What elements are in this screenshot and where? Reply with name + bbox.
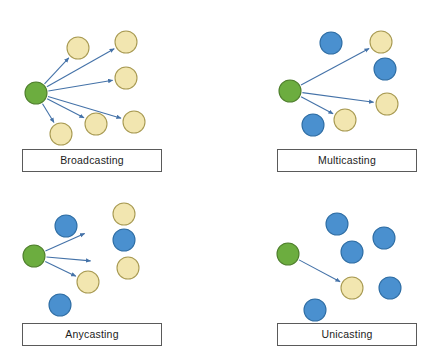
arrow-upper bbox=[45, 233, 84, 250]
panel-label-unicasting: Unicasting bbox=[277, 323, 417, 346]
source-node bbox=[277, 243, 299, 265]
idle-node-2 bbox=[374, 58, 396, 80]
panel-label-anycasting: Anycasting bbox=[22, 323, 162, 346]
source-node bbox=[25, 82, 47, 104]
arrow-to-target-2 bbox=[47, 49, 114, 87]
panel-broadcasting bbox=[25, 31, 145, 145]
target-node-1 bbox=[370, 31, 392, 53]
idle-node-2 bbox=[341, 241, 363, 263]
target-node-3 bbox=[117, 257, 139, 279]
target-node-1 bbox=[341, 277, 363, 299]
idle-node-2 bbox=[113, 229, 135, 251]
panel-label-multicasting: Multicasting bbox=[277, 149, 417, 172]
arrow-to-target-1 bbox=[299, 260, 340, 282]
panel-label-broadcasting: Broadcasting bbox=[22, 149, 162, 172]
arrow-to-target-4 bbox=[48, 97, 121, 119]
target-node-2 bbox=[113, 203, 135, 225]
target-node-2 bbox=[376, 93, 398, 115]
arrow-to-target-1 bbox=[45, 58, 69, 84]
idle-node-1 bbox=[55, 215, 77, 237]
target-node-3 bbox=[334, 109, 356, 131]
target-node-5 bbox=[85, 113, 107, 135]
source-node bbox=[23, 245, 45, 267]
idle-node-1 bbox=[326, 213, 348, 235]
idle-node-1 bbox=[320, 32, 342, 54]
arrow-middle bbox=[46, 257, 90, 261]
panel-label-text: Multicasting bbox=[318, 155, 376, 166]
target-node-3 bbox=[115, 67, 137, 89]
target-node-1 bbox=[67, 37, 89, 59]
idle-node-3 bbox=[49, 294, 71, 316]
target-node-4 bbox=[123, 111, 145, 133]
idle-node-4 bbox=[379, 277, 401, 299]
target-node-1 bbox=[77, 271, 99, 293]
arrow-to-target-1 bbox=[45, 261, 76, 276]
arrow-to-target-6 bbox=[43, 104, 54, 123]
source-node bbox=[279, 80, 301, 102]
arrow-to-target-1 bbox=[301, 48, 369, 85]
idle-node-3 bbox=[373, 227, 395, 249]
panel-anycasting bbox=[23, 203, 139, 316]
target-node-2 bbox=[115, 31, 137, 53]
arrow-to-target-2 bbox=[302, 93, 373, 103]
arrow-to-target-3 bbox=[301, 97, 333, 114]
panel-multicasting bbox=[279, 31, 398, 136]
panel-unicasting bbox=[277, 213, 401, 321]
target-node-6 bbox=[50, 123, 72, 145]
arrow-to-target-5 bbox=[47, 99, 84, 118]
panel-label-text: Unicasting bbox=[321, 329, 372, 340]
idle-node-3 bbox=[302, 114, 324, 136]
arrow-to-target-3 bbox=[48, 80, 112, 91]
idle-node-5 bbox=[304, 299, 326, 321]
panel-label-text: Anycasting bbox=[65, 329, 118, 340]
casting-diagram bbox=[0, 0, 429, 347]
panel-label-text: Broadcasting bbox=[60, 155, 124, 166]
